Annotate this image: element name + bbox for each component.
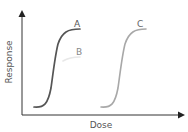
x-axis-arrow-icon <box>178 112 185 119</box>
y-axis-arrow-icon <box>19 10 26 17</box>
curve-b <box>63 57 80 61</box>
curve-c <box>101 29 146 107</box>
y-axis-label: Response <box>4 40 14 84</box>
curve-a-label: A <box>74 19 81 29</box>
curve-c-label: C <box>137 19 143 29</box>
x-axis-label: Dose <box>90 120 113 130</box>
curve-b-label: B <box>76 47 82 57</box>
curve-a <box>34 29 80 107</box>
dose-response-diagram: Response Dose A B C <box>0 0 188 132</box>
